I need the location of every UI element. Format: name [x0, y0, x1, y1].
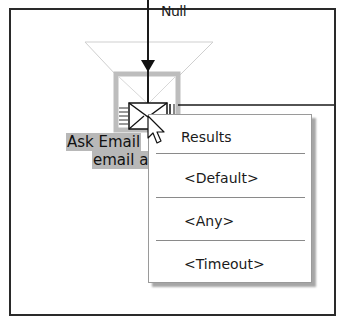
node-label-line2: email a — [92, 151, 149, 169]
menu-item-label: <Any> — [184, 201, 234, 241]
menu-separator — [156, 153, 305, 154]
results-context-menu: Results <Default> <Any> <Timeout> — [148, 114, 312, 283]
menu-item-label: <Timeout> — [184, 244, 265, 284]
menu-item-any[interactable]: <Any> — [149, 201, 311, 241]
workflow-canvas[interactable]: Null Ask — [0, 0, 341, 323]
menu-item-label: <Default> — [184, 158, 259, 198]
menu-title-label: Results — [181, 117, 232, 157]
menu-item-timeout[interactable]: <Timeout> — [149, 244, 311, 284]
menu-title-results: Results — [149, 117, 311, 157]
menu-item-default[interactable]: <Default> — [149, 158, 311, 198]
node-label-line1: Ask Email — [66, 133, 141, 151]
menu-separator — [156, 197, 305, 198]
menu-separator — [156, 240, 305, 241]
arrow-head-icon — [141, 60, 155, 72]
